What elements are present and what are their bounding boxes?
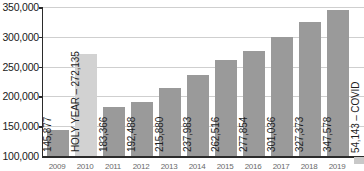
bar-2018[interactable]: 327,373 — [299, 22, 321, 157]
x-tick-label: 2012 — [133, 164, 150, 171]
x-tick-label: 2016 — [245, 164, 262, 171]
bar-2019[interactable]: 347,578 — [327, 10, 349, 157]
plot-area: 145,877 HOLY YEAR – 272,135 183,366 192,… — [42, 7, 364, 157]
bar-chart: 350,000 300,000 250,000 200,000 150,000 … — [0, 0, 364, 171]
bar-slot: 277,854 — [243, 8, 265, 157]
bar-slot: 183,366 — [103, 8, 125, 157]
x-tick-label: 2013 — [161, 164, 178, 171]
x-tick-label: 2019 — [329, 164, 346, 171]
y-tick-label: 250,000 — [2, 61, 39, 73]
bar-slot: 192,488 — [131, 8, 153, 157]
x-tick-label: 2015 — [217, 164, 234, 171]
bar-2016[interactable]: 277,854 — [243, 51, 265, 157]
y-tick-label: 350,000 — [2, 1, 39, 13]
covid-stub-bar[interactable] — [354, 157, 364, 164]
bar-2009[interactable]: 145,877 — [47, 130, 69, 157]
bar-slot: HOLY YEAR – 272,135 — [75, 8, 97, 157]
bar-2015[interactable]: 262,516 — [215, 60, 237, 157]
x-tick-label: 2010 — [77, 164, 94, 171]
covid-annotation-slot: 54,143 – COVID — [355, 8, 364, 157]
bar-2017[interactable]: 301,036 — [271, 37, 293, 157]
bar-2013[interactable]: 215,880 — [159, 88, 181, 157]
bar-2014[interactable]: 237,983 — [187, 75, 209, 157]
x-axis-baseline — [42, 156, 364, 158]
x-tick-label: 2011 — [105, 164, 121, 171]
bar-slot: 327,373 — [299, 8, 321, 157]
bar-2012[interactable]: 192,488 — [131, 102, 153, 157]
bar-slot: 301,036 — [271, 8, 293, 157]
bars-layer: 145,877 HOLY YEAR – 272,135 183,366 192,… — [43, 7, 364, 157]
bar-slot: 347,578 — [327, 8, 349, 157]
y-tick-label: 200,000 — [2, 90, 39, 102]
bar-slot: 237,983 — [187, 8, 209, 157]
y-axis: 350,000 300,000 250,000 200,000 150,000 … — [0, 0, 42, 171]
x-tick-label: 2009 — [49, 164, 66, 171]
bar-slot: 262,516 — [215, 8, 237, 157]
y-tick-label: 150,000 — [2, 120, 39, 132]
x-tick-label: 2014 — [189, 164, 206, 171]
bar-2011[interactable]: 183,366 — [103, 107, 125, 157]
bar-slot: 145,877 — [47, 8, 69, 157]
y-tick-label: 300,000 — [2, 31, 39, 43]
x-tick-label: 2017 — [273, 164, 290, 171]
y-tick-label: 100,000 — [2, 150, 39, 162]
bar-slot: 215,880 — [159, 8, 181, 157]
x-axis-category-labels: 2009 2010 2011 2012 2013 2014 2015 2016 … — [42, 164, 364, 171]
bar-2010[interactable]: HOLY YEAR – 272,135 — [75, 54, 97, 157]
x-tick-label: 2018 — [301, 164, 318, 171]
